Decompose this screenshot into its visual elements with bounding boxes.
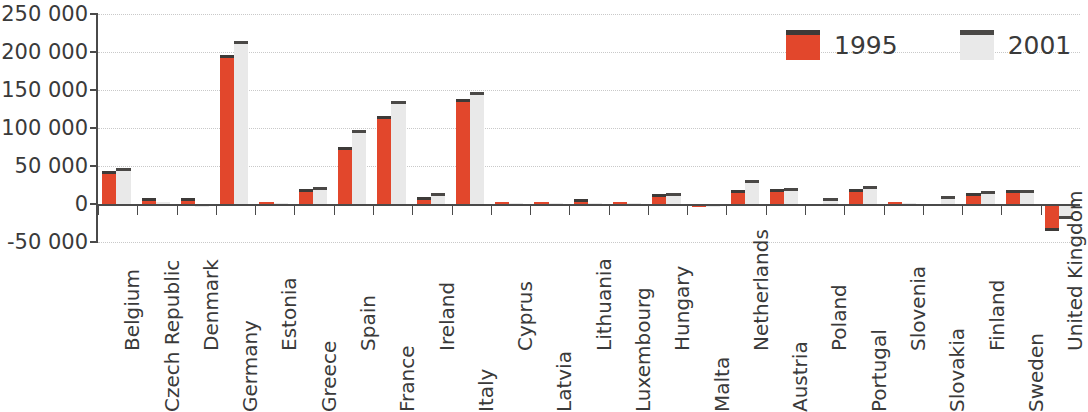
y-axis-tick-label: 150 000 [1, 80, 88, 101]
y-axis-tick-label: 100 000 [1, 118, 88, 139]
y-axis-tick-label: -50 000 [7, 232, 88, 253]
legend-item-2001[interactable]: 2001 [960, 30, 1072, 60]
x-axis-tick-mark [137, 206, 138, 215]
x-axis-tick-mark [491, 206, 492, 215]
bar-group [569, 14, 608, 242]
x-axis-label: Austria [790, 341, 810, 412]
bar-group [177, 14, 216, 242]
bar-group [137, 14, 176, 242]
x-axis-tick-mark [98, 206, 99, 215]
legend-label-1995: 1995 [834, 33, 898, 58]
bar-1995 [731, 190, 745, 204]
bar-group [98, 14, 137, 242]
bar-group [726, 14, 765, 242]
x-axis-label: Ireland [437, 282, 457, 351]
y-axis-tick-mark [90, 51, 98, 53]
bar-group [491, 14, 530, 242]
bar-1995 [1006, 190, 1020, 204]
chart-legend: 1995 2001 [786, 30, 1071, 60]
bar-2001 [666, 193, 680, 204]
bar-2001 [116, 168, 130, 204]
x-axis-label: Czech Republic [162, 260, 182, 412]
x-axis-label: Greece [319, 341, 339, 412]
bar-group [530, 14, 569, 242]
legend-label-2001: 2001 [1008, 33, 1072, 58]
x-axis-tick-mark [334, 206, 335, 215]
x-axis-tick-mark [766, 206, 767, 215]
bar-1995 [456, 99, 470, 204]
x-axis-tick-mark [452, 206, 453, 215]
legend-item-1995[interactable]: 1995 [786, 30, 898, 60]
x-axis-label: Poland [829, 284, 849, 351]
x-axis-tick-mark [569, 206, 570, 215]
x-axis-label: Denmark [201, 259, 221, 351]
x-axis-label: Slovakia [947, 328, 967, 412]
x-axis-label: Hungary [672, 266, 692, 351]
x-axis-tick-mark [805, 206, 806, 215]
bar-group [452, 14, 491, 242]
bar-2001 [470, 92, 484, 204]
x-axis-tick-mark [1041, 206, 1042, 215]
zero-baseline [96, 204, 1080, 206]
x-axis-label: Portugal [869, 329, 889, 412]
x-axis-tick-mark [687, 206, 688, 215]
y-axis-tick-label: 0 [75, 194, 88, 215]
y-axis-tick-label: 200 000 [1, 42, 88, 63]
x-axis-label: Malta [712, 357, 732, 412]
x-axis-label: Sweden [1026, 333, 1046, 412]
bar-group [687, 14, 726, 242]
bar-1995 [299, 189, 313, 204]
bar-2001 [234, 41, 248, 204]
bar-1995 [770, 189, 784, 204]
x-axis-label: Estonia [279, 277, 299, 351]
x-axis-label: Slovenia [908, 266, 928, 351]
x-axis-tick-mark [177, 206, 178, 215]
x-axis-tick-mark [1001, 206, 1002, 215]
bar-2001 [1020, 190, 1034, 204]
bar-group [609, 14, 648, 242]
x-axis-label: Netherlands [751, 229, 771, 351]
y-axis-tick-mark [90, 127, 98, 129]
x-axis-tick-mark [255, 206, 256, 215]
bar-1995 [102, 171, 116, 204]
x-axis-tick-mark [412, 206, 413, 215]
x-axis-tick-mark [648, 206, 649, 215]
bar-group [373, 14, 412, 242]
x-axis-tick-mark [923, 206, 924, 215]
bar-1995 [966, 193, 980, 204]
bar-group [412, 14, 451, 242]
x-axis-tick-mark [962, 206, 963, 215]
x-axis-label: United Kingdom [1065, 190, 1085, 351]
x-axis-tick-mark [844, 206, 845, 215]
bar-2001 [863, 186, 877, 204]
x-axis-label: France [397, 345, 417, 412]
x-axis-tick-mark [216, 206, 217, 215]
legend-swatch-1995-icon [786, 30, 820, 60]
y-axis-tick-mark [90, 13, 98, 15]
bar-group [334, 14, 373, 242]
x-axis-label: Lithuania [594, 258, 614, 351]
y-axis-tick-label: 50 000 [15, 156, 88, 177]
y-axis-tick-mark [90, 203, 98, 205]
x-axis-tick-mark [373, 206, 374, 215]
x-axis-tick-mark [530, 206, 531, 215]
x-axis-label: Spain [358, 295, 378, 351]
bar-group [648, 14, 687, 242]
bar-1995 [652, 194, 666, 204]
y-axis-tick-mark [90, 165, 98, 167]
bar-1995 [338, 147, 352, 204]
bar-1995 [417, 197, 431, 204]
x-axis-tick-mark [609, 206, 610, 215]
x-axis-label: Belgium [122, 269, 142, 351]
bar-2001 [784, 188, 798, 204]
x-axis-label: Finland [987, 280, 1007, 351]
y-axis-tick-label: 250 000 [1, 4, 88, 25]
bar-1995 [377, 116, 391, 204]
bar-1995 [849, 189, 863, 204]
bar-2001 [391, 101, 405, 204]
x-axis-tick-mark [884, 206, 885, 215]
bar-chart: 250 000200 000150 000100 00050 0000-50 0… [0, 0, 1088, 412]
bar-2001 [313, 187, 327, 204]
x-axis-tick-mark [294, 206, 295, 215]
x-axis-label: Italy [476, 369, 496, 412]
